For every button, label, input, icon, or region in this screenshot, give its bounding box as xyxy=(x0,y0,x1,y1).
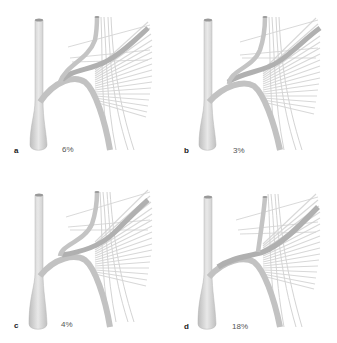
panel-percent: 4% xyxy=(61,320,73,329)
panel-a: a 6% xyxy=(0,0,168,171)
panel-letter: d xyxy=(184,322,189,331)
vessel-diagram-c xyxy=(0,172,168,343)
panel-c: c 4% xyxy=(0,172,168,343)
panel-percent: 6% xyxy=(62,145,74,154)
vessel-diagram-a xyxy=(0,0,168,171)
panel-d: d 18% xyxy=(168,172,336,343)
panel-b: b 3% xyxy=(168,0,336,171)
panel-percent: 18% xyxy=(232,322,248,331)
panel-letter: b xyxy=(184,146,189,155)
vessel-diagram-d xyxy=(168,172,336,343)
vessel-diagram-b xyxy=(168,0,336,171)
panel-percent: 3% xyxy=(233,146,245,155)
panel-letter: c xyxy=(14,321,18,330)
panel-letter: a xyxy=(14,146,18,155)
